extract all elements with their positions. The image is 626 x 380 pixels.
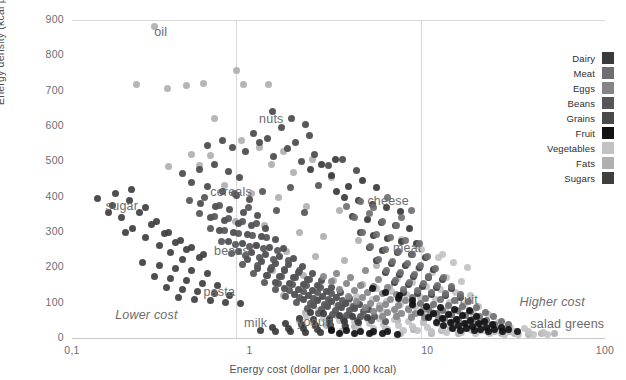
legend-label: Fruit	[576, 128, 596, 139]
data-point	[343, 327, 350, 334]
data-point	[433, 319, 440, 326]
legend-item-grains[interactable]: Grains	[547, 112, 614, 124]
data-point	[129, 225, 136, 232]
data-point	[260, 245, 267, 252]
data-point	[424, 253, 431, 260]
data-point	[172, 239, 179, 246]
legend-label: Meat	[573, 68, 595, 79]
data-point	[375, 256, 382, 263]
data-point	[253, 242, 260, 249]
data-point	[265, 81, 272, 88]
y-tick-400: 400	[0, 190, 64, 202]
data-point	[320, 233, 327, 240]
data-point	[290, 169, 297, 176]
data-point	[239, 261, 246, 268]
data-point	[226, 206, 233, 213]
data-point	[391, 306, 398, 313]
legend-swatch	[602, 157, 614, 169]
data-point	[343, 203, 350, 210]
legend-label: Beans	[568, 98, 595, 109]
legend-swatch	[602, 172, 614, 184]
data-point	[196, 166, 203, 173]
data-point	[423, 303, 430, 310]
data-point	[254, 212, 261, 219]
legend-item-eggs[interactable]: Eggs	[547, 82, 614, 94]
data-point	[336, 330, 343, 337]
data-point	[200, 80, 207, 87]
annotation-cheese: cheese	[367, 194, 409, 208]
data-point	[434, 282, 441, 289]
data-point	[235, 230, 242, 237]
data-point	[225, 168, 232, 175]
data-point	[156, 242, 163, 249]
annotation-fruit: fruit	[456, 293, 478, 307]
legend-item-sugars[interactable]: Sugars	[547, 172, 614, 184]
annotation-nuts: nuts	[259, 112, 283, 126]
data-point	[373, 231, 380, 238]
data-point	[179, 170, 186, 177]
data-point	[333, 188, 340, 195]
data-point	[288, 115, 295, 122]
data-point	[264, 272, 271, 279]
legend-item-dairy[interactable]: Dairy	[547, 52, 614, 64]
annotation-oil: oil	[154, 25, 167, 39]
data-point	[367, 243, 374, 250]
x-axis-title: Energy cost (dollar per 1,000 kcal)	[0, 363, 626, 375]
data-point	[311, 151, 318, 158]
data-point	[406, 225, 413, 232]
data-point	[373, 295, 380, 302]
legend-item-fats[interactable]: Fats	[547, 157, 614, 169]
data-point	[249, 232, 256, 239]
data-point	[332, 156, 339, 163]
y-tick-600: 600	[0, 119, 64, 131]
data-point	[397, 269, 404, 276]
gridline-y-900	[72, 20, 605, 21]
data-point	[240, 81, 247, 88]
data-point	[439, 315, 446, 322]
data-point	[359, 177, 366, 184]
annotation-beans: beans	[214, 244, 249, 258]
y-tick-900: 900	[0, 13, 64, 25]
legend-item-meat[interactable]: Meat	[547, 67, 614, 79]
data-point	[379, 330, 386, 337]
data-point	[477, 326, 484, 333]
data-point	[442, 290, 449, 297]
data-point	[359, 229, 366, 236]
data-point	[293, 299, 300, 306]
data-point	[485, 328, 492, 335]
data-point	[411, 271, 418, 278]
data-point	[233, 67, 240, 74]
annotation-sugar: sugar	[106, 199, 138, 213]
data-point	[296, 229, 303, 236]
legend-item-beans[interactable]: Beans	[547, 97, 614, 109]
data-point	[282, 293, 289, 300]
data-point	[229, 144, 236, 151]
legend-label: Fats	[576, 158, 595, 169]
legend-item-vegetables[interactable]: Vegetables	[547, 142, 614, 154]
data-point	[379, 313, 386, 320]
data-point	[393, 222, 400, 229]
data-point	[551, 330, 558, 337]
data-point	[167, 275, 174, 282]
annotation-meat: meat	[393, 241, 422, 255]
data-point	[445, 311, 452, 318]
y-tick-0: 0	[0, 331, 64, 343]
data-point	[417, 309, 424, 316]
data-point	[307, 166, 314, 173]
data-point	[357, 198, 364, 205]
data-point	[133, 81, 140, 88]
plot-area: oilnutscerealssugarcheesemeatbeanspastaf…	[72, 20, 605, 338]
data-point	[375, 276, 382, 283]
legend-item-fruit[interactable]: Fruit	[547, 127, 614, 139]
data-point	[242, 148, 249, 155]
annotation-lower-cost: Lower cost	[115, 308, 177, 322]
data-point	[266, 244, 273, 251]
data-point	[317, 329, 324, 336]
data-point	[272, 286, 279, 293]
data-point	[302, 329, 309, 336]
data-point	[392, 277, 399, 284]
data-point	[268, 161, 275, 168]
data-point	[236, 174, 243, 181]
data-point	[379, 218, 386, 225]
data-point	[142, 204, 149, 211]
